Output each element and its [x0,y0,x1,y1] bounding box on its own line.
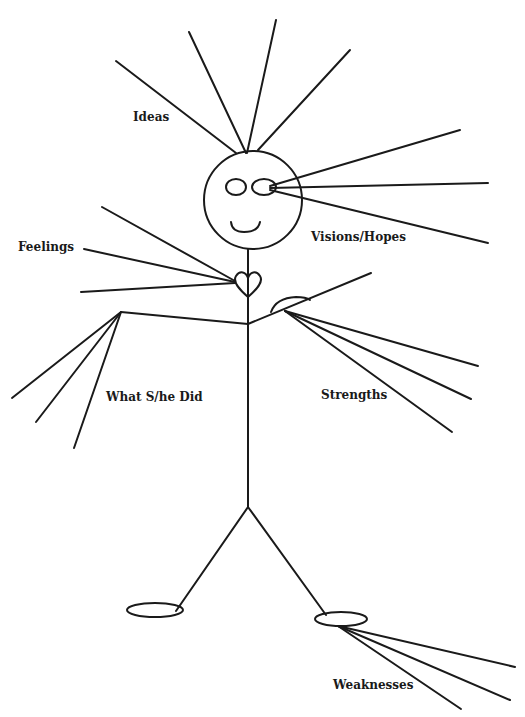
head [204,151,302,249]
left-foot [127,603,183,617]
feelings-rays [81,207,235,292]
ideas-rays [116,20,350,153]
label-visions-hopes: Visions/Hopes [311,230,406,244]
label-strengths: Strengths [321,388,387,402]
label-what-did: What S/he Did [106,390,203,404]
left-arm [121,312,248,324]
right-leg [248,507,326,615]
label-weaknesses: Weaknesses [333,678,413,692]
strengths-rays [285,311,478,432]
label-feelings: Feelings [18,240,74,254]
left-eye [226,179,246,195]
muscle [271,297,310,312]
visions-rays [270,130,488,243]
label-ideas: Ideas [133,110,169,124]
smile [231,222,260,232]
right-foot [315,612,367,626]
did-rays [12,312,121,448]
left-leg [176,507,248,611]
weaknesses-rays [338,626,515,709]
stick-figure-diagram [0,0,525,717]
